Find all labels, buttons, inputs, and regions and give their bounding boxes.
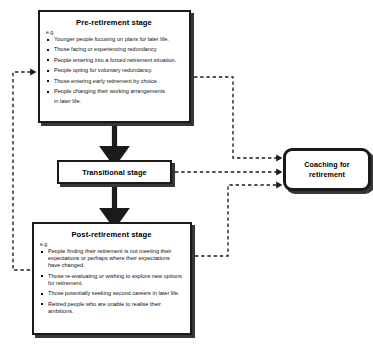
post-retirement-stage-box: Post-retirement stage e.g. People findin… bbox=[32, 222, 192, 335]
post-to-pre-feedback-arrow bbox=[13, 72, 31, 270]
list-item: Those entering early retirement by choic… bbox=[46, 78, 182, 85]
list-item-continuation: in later life. bbox=[46, 98, 182, 105]
list-item: People opting for voluntary redundancy. bbox=[46, 67, 182, 74]
post-retirement-bullet-list: People finding their retirement is not m… bbox=[40, 248, 183, 315]
transitional-title: Transitional stage bbox=[82, 168, 147, 177]
list-item: Those facing or experiencing redundancy. bbox=[46, 46, 182, 53]
list-item: People changing their working arrangemen… bbox=[46, 88, 182, 95]
pre-retirement-eg-label: e.g. bbox=[46, 29, 182, 35]
coaching-title-line2: retirement bbox=[309, 170, 345, 179]
pre-retirement-stage-box: Pre-retirement stage e.g. Younger people… bbox=[38, 10, 191, 123]
post-to-coaching-arrow bbox=[195, 185, 277, 256]
list-item: Retired people who are unable to realise… bbox=[40, 301, 183, 315]
list-item: People entering into a forced retirement… bbox=[46, 57, 182, 64]
coaching-title: Coaching for retirement bbox=[300, 160, 354, 179]
pre-to-coaching-arrow bbox=[194, 77, 277, 158]
retirement-stages-diagram: Pre-retirement stage e.g. Younger people… bbox=[0, 0, 373, 347]
post-retirement-title: Post-retirement stage bbox=[40, 230, 183, 239]
list-item: Younger people focusing on plans for lat… bbox=[46, 36, 182, 43]
pre-retirement-bullet-list: Younger people focusing on plans for lat… bbox=[46, 36, 182, 106]
transitional-stage-box: Transitional stage bbox=[57, 160, 172, 184]
coaching-title-line1: Coaching for bbox=[304, 160, 350, 169]
list-item: Those re-evaluating or wishing to explor… bbox=[40, 273, 183, 287]
pre-retirement-title: Pre-retirement stage bbox=[46, 18, 182, 27]
list-item: People finding their retirement is not m… bbox=[40, 248, 183, 270]
post-retirement-eg-label: e.g. bbox=[40, 241, 183, 247]
coaching-for-retirement-box: Coaching for retirement bbox=[283, 148, 371, 191]
list-item: Those potentially seeking second careers… bbox=[40, 290, 183, 297]
